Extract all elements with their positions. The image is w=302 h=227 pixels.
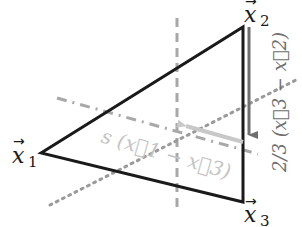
- label-x1: x 1 →: [12, 133, 38, 171]
- svg-text:3: 3: [260, 212, 270, 227]
- triangle-diagram: x 1 → x 2 → x 3 → s (x⃗1 − x⃗3) 2/3 (x⃗3…: [0, 0, 302, 227]
- svg-text:2: 2: [260, 12, 270, 30]
- svg-text:→: →: [245, 0, 257, 9]
- svg-text:→: →: [245, 193, 257, 209]
- svg-text:1: 1: [28, 153, 38, 171]
- svg-text:→: →: [13, 133, 25, 149]
- label-fraction-vector: 2/3 (x⃗3 − x⃗2): [269, 32, 290, 173]
- light-vector-arrow: [186, 126, 243, 142]
- label-x3: x 3 →: [244, 193, 270, 227]
- label-x2: x 2 →: [244, 0, 270, 30]
